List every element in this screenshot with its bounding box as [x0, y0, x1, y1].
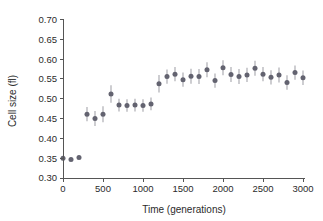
data-point [157, 81, 162, 86]
x-tick-label: 0 [60, 183, 65, 194]
data-point [269, 75, 274, 80]
data-point [93, 116, 98, 121]
data-point [117, 103, 122, 108]
data-point [253, 66, 258, 71]
cell-size-evolution-chart: 0.300.350.400.450.500.550.600.650.70 050… [0, 0, 323, 221]
axes-layer [63, 19, 305, 179]
data-point [237, 74, 242, 79]
data-point-layer [61, 65, 306, 162]
x-tick-label: 500 [95, 183, 111, 194]
data-point [285, 80, 290, 85]
data-point [245, 72, 250, 77]
data-point [189, 74, 194, 79]
data-point [213, 78, 218, 83]
data-point [85, 112, 90, 117]
figure-container: 0.300.350.400.450.500.550.600.650.70 050… [0, 0, 323, 221]
x-tick-label: 2000 [212, 183, 233, 194]
data-point [141, 103, 146, 108]
data-point [261, 72, 266, 77]
y-tick-label: 0.60 [39, 54, 58, 65]
data-point [229, 72, 234, 77]
data-point [277, 72, 282, 77]
data-point [173, 72, 178, 77]
y-tick-label: 0.35 [39, 153, 58, 164]
chart-canvas: 0.300.350.400.450.500.550.600.650.70 050… [0, 0, 323, 221]
x-tick-label: 2500 [252, 183, 273, 194]
data-point [77, 155, 82, 160]
x-tick-label: 3000 [292, 183, 313, 194]
y-tick-label: 0.45 [39, 113, 58, 124]
y-tick-label: 0.55 [39, 73, 58, 84]
data-point [181, 77, 186, 82]
data-point [197, 74, 202, 79]
data-point [221, 65, 226, 70]
data-point [69, 157, 74, 162]
data-point [101, 112, 106, 117]
x-tick-label: 1500 [172, 183, 193, 194]
data-point [149, 101, 154, 106]
y-tick-label: 0.40 [39, 133, 58, 144]
x-axis-label: Time (generations) [142, 204, 226, 215]
data-point [165, 74, 170, 79]
y-tick-label: 0.65 [39, 34, 58, 45]
data-point [125, 103, 130, 108]
y-tick-label: 0.50 [39, 93, 58, 104]
x-axis-ticks: 050010001500200025003000 [60, 178, 313, 194]
y-tick-label: 0.70 [39, 14, 58, 25]
data-point [301, 75, 306, 80]
x-tick-label: 1000 [132, 183, 153, 194]
y-axis-label: Cell size (fl) [7, 75, 18, 127]
data-point [293, 70, 298, 75]
data-point [205, 67, 210, 72]
data-point [133, 103, 138, 108]
data-point [109, 91, 114, 96]
errorbar-layer [63, 60, 303, 161]
y-tick-label: 0.30 [39, 172, 58, 183]
y-axis-ticks: 0.300.350.400.450.500.550.600.650.70 [39, 14, 64, 184]
